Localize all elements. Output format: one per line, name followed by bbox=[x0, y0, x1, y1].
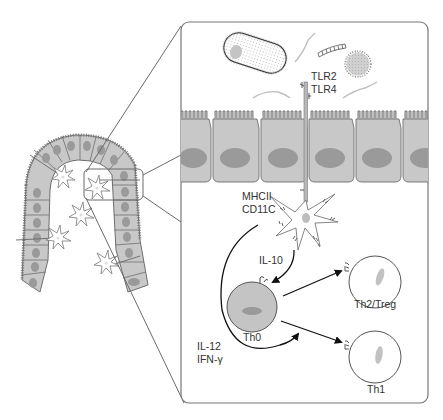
label-tlr4: TLR4 bbox=[311, 83, 337, 95]
label-cd11c: CD11C bbox=[242, 203, 276, 215]
villus-dendritic-cells bbox=[46, 165, 119, 274]
label-il10: IL-10 bbox=[259, 254, 283, 266]
label-th0: Th0 bbox=[243, 331, 261, 343]
magnified-panel: TLR2 TLR4 MHCII CD11C IL-10 IL-12 IFN-γ … bbox=[178, 22, 440, 403]
villus bbox=[16, 135, 148, 292]
label-il12: IL-12 bbox=[197, 340, 221, 352]
dc-nucleus bbox=[302, 213, 310, 223]
label-mhcii: MHCII bbox=[242, 190, 272, 202]
label-th2-treg: Th2/Treg bbox=[354, 298, 396, 310]
label-ifn-gamma: IFN-γ bbox=[197, 353, 223, 365]
label-tlr2: TLR2 bbox=[311, 70, 337, 82]
diagram-canvas: TLR2 TLR4 MHCII CD11C IL-10 IL-12 IFN-γ … bbox=[0, 0, 443, 420]
label-th1: Th1 bbox=[367, 383, 385, 395]
